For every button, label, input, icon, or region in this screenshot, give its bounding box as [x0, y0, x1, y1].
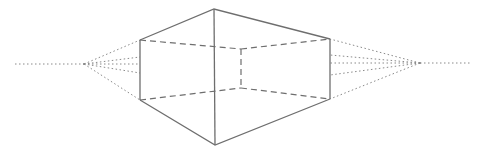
- right-vanishing-point: [419, 62, 421, 64]
- left-vanishing-point: [83, 63, 85, 65]
- hidden-edges: [140, 39, 330, 100]
- right-vanishing-rays: [330, 39, 420, 99]
- perspective-diagram: [0, 0, 488, 153]
- left-vanishing-rays: [84, 40, 140, 100]
- visible-edges: [140, 9, 330, 145]
